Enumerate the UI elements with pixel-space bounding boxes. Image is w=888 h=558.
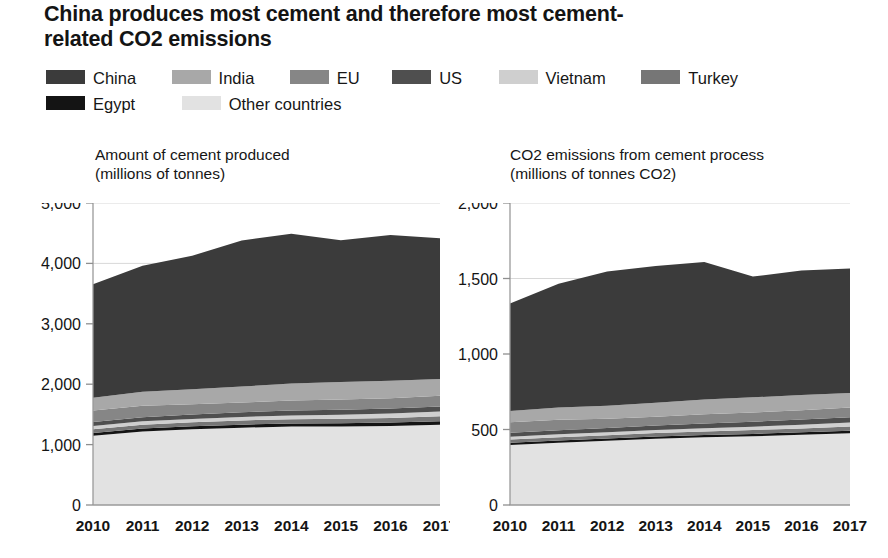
legend-swatch-egypt [46,96,85,110]
y-tick-label-1000: 1,000 [458,346,498,363]
y-tick-label-4000: 4,000 [41,255,81,272]
legend-swatch-turkey [641,70,680,84]
legend-row-2: Egypt Other countries [46,92,866,118]
x-tick-label-2010: 2010 [76,517,110,534]
legend-swatch-vietnam [499,70,538,84]
x-tick-label-2013: 2013 [224,517,259,534]
legend-label-us: US [439,67,462,89]
y-tick-label-2000: 2,000 [41,376,81,393]
y-tick-label-0: 0 [489,497,498,514]
area-series-china [93,234,440,398]
x-tick-label-2012: 2012 [175,517,209,534]
x-tick-label-2012: 2012 [590,517,624,534]
x-tick-label-2014: 2014 [274,517,309,534]
chart-legend: China India EU US Vietnam Turkey Egypt O… [46,66,866,118]
page-title: China produces most cement and therefore… [44,2,664,52]
area-series-other-countries [510,433,850,505]
x-tick-label-2013: 2013 [638,517,673,534]
legend-label-india: India [219,67,255,89]
chart-cement-co2-emissions: 05001,0001,5002,000201020112012201320142… [440,203,888,558]
legend-label-egypt: Egypt [93,93,135,115]
panel-title-cement-production: Amount of cement produced (millions of t… [95,146,290,184]
legend-item-egypt: Egypt [46,92,135,114]
area-series-other-countries [93,425,440,505]
plot-area-cement-co2-emissions: 05001,0001,5002,000201020112012201320142… [440,203,888,558]
y-tick-label-500: 500 [471,422,498,439]
x-tick-label-2011: 2011 [542,517,576,534]
legend-label-china: China [93,67,136,89]
y-tick-label-1500: 1,500 [458,271,498,288]
x-tick-label-2015: 2015 [324,517,359,534]
legend-item-vietnam: Vietnam [499,66,606,88]
legend-swatch-eu [290,70,329,84]
panel-title-cement-co2-emissions: CO2 emissions from cement process (milli… [510,146,764,184]
legend-item-us: US [392,66,462,88]
legend-item-china: China [46,66,136,88]
x-tick-label-2010: 2010 [493,517,527,534]
x-tick-label-2016: 2016 [373,517,408,534]
legend-label-vietnam: Vietnam [546,67,606,89]
legend-row-1: China India EU US Vietnam Turkey [46,66,866,92]
legend-item-turkey: Turkey [641,66,738,88]
legend-item-eu: EU [290,66,360,88]
x-tick-label-2011: 2011 [126,517,160,534]
legend-label-eu: EU [337,67,360,89]
legend-label-other-countries: Other countries [229,93,342,115]
area-series-china [510,262,850,411]
x-tick-label-2016: 2016 [784,517,819,534]
y-tick-label-3000: 3,000 [41,316,81,333]
y-tick-label-5000: 5,000 [41,203,81,212]
plot-area-cement-production: 01,0002,0003,0004,0005,00020102011201220… [0,203,450,558]
legend-item-other-countries: Other countries [182,92,342,114]
x-tick-label-2017: 2017 [833,517,867,534]
y-tick-label-0: 0 [72,497,81,514]
chart-cement-production: 01,0002,0003,0004,0005,00020102011201220… [0,203,450,558]
legend-swatch-us [392,70,431,84]
x-tick-label-2015: 2015 [736,517,771,534]
legend-swatch-china [46,70,85,84]
legend-label-turkey: Turkey [688,67,738,89]
legend-swatch-other-countries [182,96,221,110]
y-tick-label-1000: 1,000 [41,437,81,454]
legend-swatch-india [172,70,211,84]
y-tick-label-2000: 2,000 [458,203,498,212]
legend-item-india: India [172,66,255,88]
x-tick-label-2014: 2014 [687,517,722,534]
